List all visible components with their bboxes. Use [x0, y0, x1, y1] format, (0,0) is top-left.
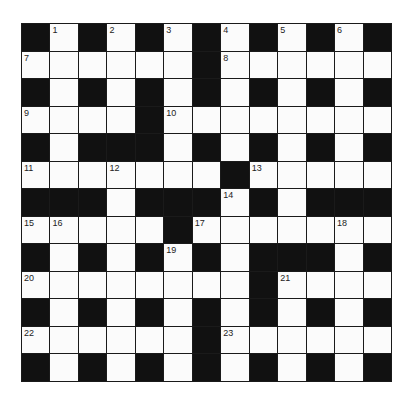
answer-cell[interactable]: 5: [278, 24, 305, 51]
answer-cell[interactable]: [50, 162, 77, 189]
answer-cell[interactable]: [221, 134, 248, 161]
answer-cell[interactable]: [107, 244, 134, 271]
answer-cell[interactable]: [107, 272, 134, 299]
answer-cell[interactable]: [50, 244, 77, 271]
answer-cell[interactable]: [335, 134, 362, 161]
answer-cell[interactable]: [278, 189, 305, 216]
answer-cell[interactable]: [335, 299, 362, 326]
answer-cell[interactable]: [335, 107, 362, 134]
answer-cell[interactable]: [364, 327, 391, 354]
answer-cell[interactable]: [307, 52, 334, 79]
answer-cell[interactable]: [364, 52, 391, 79]
answer-cell[interactable]: [278, 327, 305, 354]
answer-cell[interactable]: [335, 52, 362, 79]
answer-cell[interactable]: 21: [278, 272, 305, 299]
answer-cell[interactable]: [50, 107, 77, 134]
answer-cell[interactable]: [79, 107, 106, 134]
answer-cell[interactable]: 23: [221, 327, 248, 354]
answer-cell[interactable]: [221, 79, 248, 106]
answer-cell[interactable]: [107, 79, 134, 106]
answer-cell[interactable]: 10: [164, 107, 191, 134]
answer-cell[interactable]: [136, 162, 163, 189]
answer-cell[interactable]: [50, 79, 77, 106]
answer-cell[interactable]: 11: [22, 162, 49, 189]
answer-cell[interactable]: [307, 107, 334, 134]
answer-cell[interactable]: [307, 217, 334, 244]
answer-cell[interactable]: [164, 162, 191, 189]
answer-cell[interactable]: [164, 52, 191, 79]
answer-cell[interactable]: 22: [22, 327, 49, 354]
answer-cell[interactable]: [278, 134, 305, 161]
answer-cell[interactable]: [335, 162, 362, 189]
answer-cell[interactable]: [221, 354, 248, 381]
answer-cell[interactable]: 13: [250, 162, 277, 189]
answer-cell[interactable]: [364, 217, 391, 244]
answer-cell[interactable]: [50, 354, 77, 381]
answer-cell[interactable]: 6: [335, 24, 362, 51]
answer-cell[interactable]: [250, 52, 277, 79]
answer-cell[interactable]: [364, 162, 391, 189]
answer-cell[interactable]: [307, 327, 334, 354]
answer-cell[interactable]: [364, 107, 391, 134]
answer-cell[interactable]: [307, 272, 334, 299]
answer-cell[interactable]: [335, 244, 362, 271]
answer-cell[interactable]: [193, 107, 220, 134]
answer-cell[interactable]: [79, 52, 106, 79]
answer-cell[interactable]: [221, 272, 248, 299]
answer-cell[interactable]: [278, 79, 305, 106]
answer-cell[interactable]: [278, 107, 305, 134]
answer-cell[interactable]: [107, 354, 134, 381]
answer-cell[interactable]: [50, 327, 77, 354]
answer-cell[interactable]: 15: [22, 217, 49, 244]
answer-cell[interactable]: 20: [22, 272, 49, 299]
answer-cell[interactable]: 12: [107, 162, 134, 189]
answer-cell[interactable]: [164, 299, 191, 326]
answer-cell[interactable]: [50, 272, 77, 299]
answer-cell[interactable]: [79, 217, 106, 244]
answer-cell[interactable]: [278, 217, 305, 244]
answer-cell[interactable]: [136, 52, 163, 79]
answer-cell[interactable]: [50, 134, 77, 161]
answer-cell[interactable]: 3: [164, 24, 191, 51]
answer-cell[interactable]: [221, 217, 248, 244]
answer-cell[interactable]: [79, 272, 106, 299]
answer-cell[interactable]: [221, 244, 248, 271]
answer-cell[interactable]: 4: [221, 24, 248, 51]
answer-cell[interactable]: 7: [22, 52, 49, 79]
answer-cell[interactable]: [164, 79, 191, 106]
answer-cell[interactable]: [164, 134, 191, 161]
answer-cell[interactable]: [278, 162, 305, 189]
answer-cell[interactable]: [307, 162, 334, 189]
answer-cell[interactable]: [107, 107, 134, 134]
answer-cell[interactable]: 18: [335, 217, 362, 244]
answer-cell[interactable]: 16: [50, 217, 77, 244]
answer-cell[interactable]: [164, 327, 191, 354]
answer-cell[interactable]: 9: [22, 107, 49, 134]
answer-cell[interactable]: [250, 327, 277, 354]
answer-cell[interactable]: [193, 272, 220, 299]
answer-cell[interactable]: 19: [164, 244, 191, 271]
answer-cell[interactable]: [79, 327, 106, 354]
answer-cell[interactable]: [136, 217, 163, 244]
answer-cell[interactable]: [50, 52, 77, 79]
answer-cell[interactable]: [250, 107, 277, 134]
answer-cell[interactable]: [107, 217, 134, 244]
answer-cell[interactable]: [107, 189, 134, 216]
answer-cell[interactable]: [164, 272, 191, 299]
answer-cell[interactable]: [79, 162, 106, 189]
answer-cell[interactable]: [50, 299, 77, 326]
answer-cell[interactable]: [335, 272, 362, 299]
answer-cell[interactable]: [278, 299, 305, 326]
answer-cell[interactable]: [107, 52, 134, 79]
answer-cell[interactable]: [136, 272, 163, 299]
answer-cell[interactable]: 8: [221, 52, 248, 79]
answer-cell[interactable]: [335, 354, 362, 381]
answer-cell[interactable]: [278, 52, 305, 79]
answer-cell[interactable]: [221, 299, 248, 326]
answer-cell[interactable]: [107, 327, 134, 354]
answer-cell[interactable]: [136, 327, 163, 354]
answer-cell[interactable]: 14: [221, 189, 248, 216]
answer-cell[interactable]: 2: [107, 24, 134, 51]
answer-cell[interactable]: [278, 354, 305, 381]
answer-cell[interactable]: 17: [193, 217, 220, 244]
